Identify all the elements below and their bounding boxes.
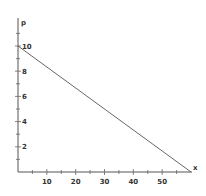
chart-canvas: 246810 1020304050 p x — [0, 0, 206, 196]
y-tick-label: 2 — [22, 143, 27, 151]
y-axis-label: p — [21, 19, 26, 27]
x-tick-label: 30 — [100, 178, 110, 186]
x-axis-label: x — [193, 164, 198, 172]
data-line — [18, 46, 191, 172]
axes — [18, 18, 192, 172]
x-tick-label: 10 — [42, 178, 52, 186]
x-tick-label: 40 — [128, 178, 138, 186]
x-tick-label: 50 — [157, 178, 167, 186]
y-tick-label: 4 — [22, 118, 27, 126]
y-tick-label: 6 — [22, 93, 27, 101]
x-tick-label: 20 — [71, 178, 81, 186]
y-tick-label: 8 — [22, 68, 27, 76]
y-tick-label: 10 — [22, 43, 32, 51]
series — [18, 46, 191, 172]
